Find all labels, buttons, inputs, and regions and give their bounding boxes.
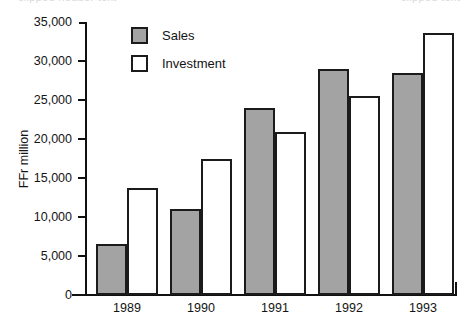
x-axis-right-cap xyxy=(455,282,457,296)
legend-label-investment: Investment xyxy=(162,56,226,71)
y-axis-tick xyxy=(78,294,86,296)
bar-investment-1989[interactable] xyxy=(127,188,158,295)
x-axis-label-1993: 1993 xyxy=(383,301,463,315)
y-axis-tick-label: 10,000 xyxy=(10,211,72,223)
bar-sales-1990[interactable] xyxy=(170,209,201,295)
legend-swatch-sales-icon xyxy=(131,27,148,44)
bar-sales-1992[interactable] xyxy=(318,69,349,295)
legend-swatch-investment-icon xyxy=(131,55,148,72)
bar-investment-1991[interactable] xyxy=(275,132,306,295)
chart-legend: Sales Investment xyxy=(131,24,226,80)
y-axis-tick xyxy=(78,255,86,257)
y-axis-tick-label: 0 xyxy=(10,289,72,301)
y-axis-tick xyxy=(78,99,86,101)
y-axis-tick xyxy=(78,216,86,218)
legend-item-sales[interactable]: Sales xyxy=(131,24,226,46)
bar-investment-1992[interactable] xyxy=(349,96,380,295)
y-axis-tick-label: 30,000 xyxy=(10,55,72,67)
legend-item-investment[interactable]: Investment xyxy=(131,52,226,74)
x-axis-label-1990: 1990 xyxy=(161,301,241,315)
bar-sales-1993[interactable] xyxy=(392,73,423,295)
bar-sales-1991[interactable] xyxy=(244,108,275,295)
y-axis-title: FFr million xyxy=(17,89,31,229)
y-axis-tick-label: 5,000 xyxy=(10,250,72,262)
bar-chart: FFr million 05,00010,00015,00020,00025,0… xyxy=(0,0,472,330)
x-axis-label-1992: 1992 xyxy=(309,301,389,315)
bar-investment-1993[interactable] xyxy=(423,33,454,295)
y-axis-tick xyxy=(78,138,86,140)
x-axis-label-1989: 1989 xyxy=(87,301,167,315)
bar-investment-1990[interactable] xyxy=(201,159,232,295)
bar-sales-1989[interactable] xyxy=(96,244,127,295)
y-axis-tick-label: 20,000 xyxy=(10,133,72,145)
y-axis-top-cap xyxy=(79,22,86,24)
y-axis-tick-label: 35,000 xyxy=(10,16,72,28)
x-axis-label-1991: 1991 xyxy=(235,301,315,315)
y-axis-tick-label: 25,000 xyxy=(10,94,72,106)
legend-label-sales: Sales xyxy=(162,28,195,43)
y-axis-tick-label: 15,000 xyxy=(10,172,72,184)
y-axis-tick xyxy=(78,177,86,179)
y-axis-tick xyxy=(78,60,86,62)
